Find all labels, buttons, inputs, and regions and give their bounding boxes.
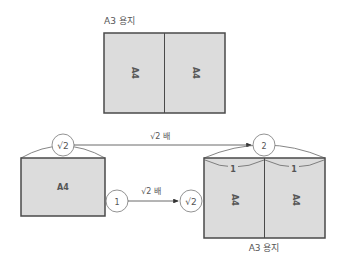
target-height-marker-text: √2 xyxy=(185,197,196,207)
top-a3-caption: A3 용지 xyxy=(104,16,135,26)
target-width-marker-text: 2 xyxy=(261,142,266,151)
source-a4-group: A4 √2 1 xyxy=(21,134,128,216)
target-a3-caption: A3 용지 xyxy=(249,243,280,253)
target-half-right-label: 1 xyxy=(291,165,297,174)
source-a4-label: A4 xyxy=(57,183,69,192)
a-paper-size-diagram: A3 용지 A4 A4 A4 √2 1 √2 배 √2 배 1 1 A4 A4 xyxy=(0,0,344,266)
target-half-left-label: 1 xyxy=(230,165,236,174)
middle-arrow-label: √2 배 xyxy=(141,187,161,196)
top-arrow-label: √2 배 xyxy=(150,132,170,141)
source-height-marker-text: 1 xyxy=(114,198,119,207)
top-right-a4-label: A4 xyxy=(191,67,200,79)
top-left-a4-label: A4 xyxy=(130,67,139,79)
target-a3-group: 1 1 A4 A4 2 √2 A3 용지 xyxy=(180,134,325,253)
target-right-a4-label: A4 xyxy=(291,194,300,206)
target-left-a4-label: A4 xyxy=(230,194,239,206)
top-a3-diagram: A3 용지 A4 A4 xyxy=(104,16,225,113)
source-width-marker-text: √2 xyxy=(57,141,68,151)
